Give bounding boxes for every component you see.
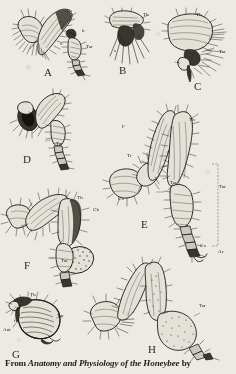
figure-letter-h: H — [148, 343, 156, 355]
figure-e-label-cx-1: Cx — [118, 196, 124, 201]
figure-c-label-s: s — [177, 59, 179, 64]
figure-f-label-tb: Tb — [77, 195, 83, 200]
caption-work-title: Anatomy and Physiology of the Honeybee — [28, 358, 179, 368]
figure-f-label-tar: Tar — [61, 258, 68, 263]
figure-letter-d: D — [23, 153, 31, 165]
figure-c-label-tar: Tar — [219, 49, 226, 54]
figure-b-label-s: s — [114, 48, 116, 53]
figure-a-label-tar: Tar — [86, 44, 93, 49]
figure-e-label-f: F — [122, 124, 125, 129]
figure-e-label-tar-2: Tar — [219, 184, 226, 189]
caption-prefix: From — [5, 358, 28, 368]
figure-e-label-tr: Tr — [127, 153, 132, 158]
figure-g-label-tb: Tb — [30, 292, 36, 297]
figure-c-drawing — [166, 8, 236, 84]
figure-letter-b: B — [119, 64, 127, 76]
figure-e-label-tb: Tb — [189, 117, 195, 122]
illustration-plate: A Tb h s Tar B Tb s — [0, 0, 236, 374]
plate-caption: From Anatomy and Physiology of the Honey… — [5, 358, 236, 368]
figure-e-label-ar: Ar — [218, 249, 223, 254]
figure-g-label-f: f — [14, 318, 16, 323]
figure-e-drawing — [108, 106, 230, 258]
figure-f-label-ck: Ck — [93, 207, 99, 212]
figure-d-label-tar: Tar — [56, 141, 63, 146]
figure-letter-a: A — [44, 66, 52, 78]
figure-h-label-tar: Tar — [199, 303, 206, 308]
figure-a-label-tb: Tb — [66, 8, 72, 13]
figure-a-label-h: h — [82, 28, 85, 33]
figure-a-label-s: s — [60, 41, 62, 46]
caption-suffix: by — [180, 358, 191, 368]
figure-c-label-h: h — [189, 69, 192, 74]
figure-e-label-cx-2: Cx — [200, 243, 206, 248]
figure-g-label-tar: Tar — [57, 313, 64, 318]
figure-b-drawing — [104, 8, 166, 66]
figure-c-label-tb: Tb — [196, 12, 202, 17]
figure-h-drawing — [86, 256, 236, 360]
figure-letter-c: C — [194, 80, 202, 92]
figure-letter-f: F — [24, 259, 30, 271]
figure-g-label-ant: Ant — [3, 327, 11, 332]
figure-letter-e: E — [141, 218, 148, 230]
figure-e-label-tar-1: Tar — [170, 180, 177, 185]
figure-b-label-tb: Tb — [143, 12, 149, 17]
